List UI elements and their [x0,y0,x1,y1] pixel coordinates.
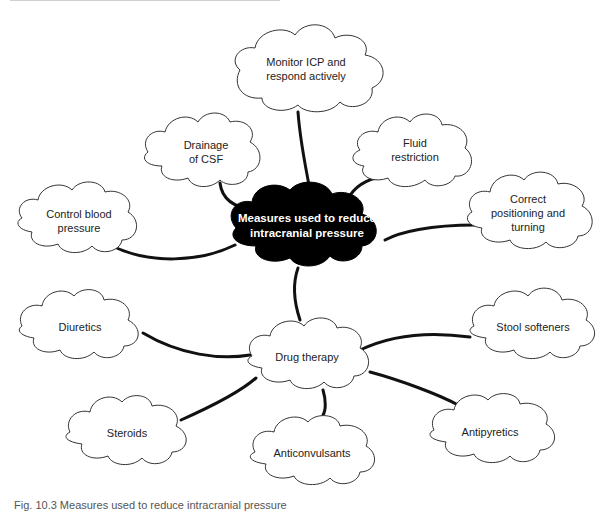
node-label-line: turning [491,220,565,234]
center-label: Measures used to reduce intracranial pre… [238,211,376,241]
node-label-line: Monitor ICP and [266,55,346,69]
link-drug-therapy [295,268,300,320]
node-label-line: Correct [491,192,565,206]
clouds [18,25,595,485]
link-correct-positioning [385,225,475,240]
node-fluid-restriction: Fluid restriction [391,136,439,164]
node-drainage-csf: Drainage of CSF [184,138,229,166]
link-control-bp [110,245,235,259]
node-diuretics: Diuretics [59,320,102,334]
node-label-line: positioning and [491,206,565,220]
node-label-line: restriction [391,150,439,164]
center-label-line2: intracranial pressure [238,226,376,241]
node-drug-therapy: Drug therapy [275,350,339,364]
link-anticonvulsants [323,390,325,415]
link-diuretics [143,333,250,357]
figure-caption: Fig. 10.3 Measures used to reduce intrac… [14,499,287,511]
node-label-line: pressure [46,221,111,235]
node-label-line: Drainage [184,138,229,152]
node-anticonvulsants: Anticonvulsants [273,446,350,460]
node-label-line: respond actively [266,69,346,83]
center-label-line1: Measures used to reduce [238,211,376,226]
node-monitor-icp: Monitor ICP and respond actively [266,55,346,83]
node-stool-softeners: Stool softeners [496,320,569,334]
node-label-line: of CSF [184,152,229,166]
node-label-line: Diuretics [59,320,102,334]
node-control-bp: Control blood pressure [46,207,111,235]
node-label-line: Antipyretics [462,425,519,439]
link-antipyretics [370,372,458,405]
link-stool-softeners [360,334,470,350]
node-label-line: Fluid [391,136,439,150]
node-antipyretics: Antipyretics [462,425,519,439]
node-label-line: Anticonvulsants [273,446,350,460]
node-label-line: Control blood [46,207,111,221]
node-label-line: Drug therapy [275,350,339,364]
link-steroids [181,378,256,420]
link-monitor-icp [298,112,310,190]
node-correct-positioning: Correct positioning and turning [491,192,565,234]
node-label-line: Stool softeners [496,320,569,334]
node-label-line: Steroids [107,426,147,440]
node-steroids: Steroids [107,426,147,440]
